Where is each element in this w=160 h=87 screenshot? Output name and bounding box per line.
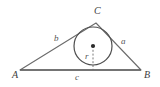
vertex-label-c: C (94, 6, 101, 16)
side-label-a: a (121, 37, 126, 46)
vertex-label-b: B (144, 70, 150, 80)
vertex-label-a: A (12, 70, 18, 80)
radius-label-r: r (85, 52, 89, 61)
side-label-b: b (54, 34, 59, 43)
triangle-incircle-drawing (0, 0, 160, 87)
side-label-c: c (75, 73, 79, 82)
incenter-dot (91, 44, 95, 48)
geometry-figure: A B C b a c r (0, 0, 160, 87)
triangle-abc-shape (20, 23, 141, 70)
